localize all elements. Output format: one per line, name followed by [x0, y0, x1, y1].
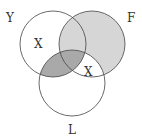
- marker-f-l: X: [84, 65, 93, 79]
- label-l: L: [68, 123, 76, 137]
- label-y: Y: [5, 11, 15, 25]
- venn-diagram: Y F L X X: [0, 0, 142, 139]
- label-f: F: [127, 11, 135, 25]
- marker-y-only: X: [34, 37, 43, 51]
